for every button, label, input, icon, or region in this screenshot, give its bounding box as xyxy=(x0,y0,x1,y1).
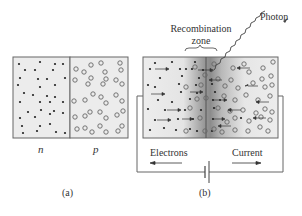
recombination-zone-label: Recombination zone xyxy=(168,24,234,46)
current-label: Current xyxy=(232,148,263,158)
panel-b-caption: (b) xyxy=(199,188,211,198)
panel-a-caption: (a) xyxy=(62,188,73,198)
electrons-arrow xyxy=(150,162,182,165)
pn-junction-diagram xyxy=(0,0,302,216)
photon-label: Photon xyxy=(260,12,288,22)
panel-a-junction xyxy=(13,57,128,138)
battery-icon xyxy=(205,161,209,183)
current-arrow xyxy=(232,162,261,165)
p-region-label: p xyxy=(93,144,99,155)
recombination-label-line1: Recombination xyxy=(168,24,234,34)
electrons-label: Electrons xyxy=(150,148,188,158)
n-region-label: n xyxy=(38,144,44,155)
recombination-label-line2: zone xyxy=(168,36,234,46)
